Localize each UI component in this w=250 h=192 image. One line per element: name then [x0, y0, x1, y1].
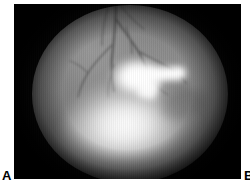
panel-label-a: A — [2, 169, 11, 182]
fundus-field — [32, 5, 228, 179]
figure-root: A B — [0, 0, 250, 192]
panel-label-b: B — [244, 169, 250, 182]
panel-a-photograph — [14, 4, 241, 179]
